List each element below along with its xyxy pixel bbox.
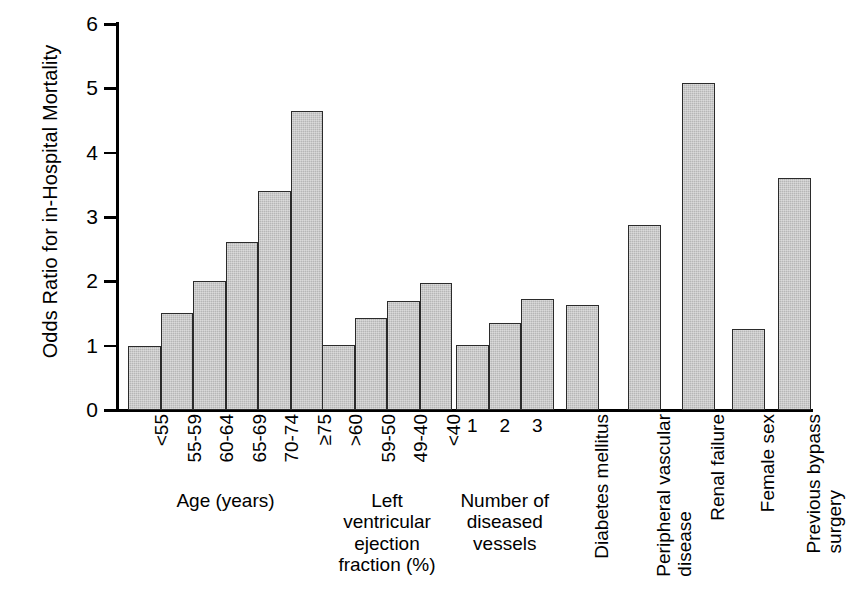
y-tick-5 — [104, 87, 117, 90]
bar — [193, 281, 226, 410]
bar — [566, 305, 599, 410]
bar — [128, 346, 161, 410]
bar — [628, 225, 661, 410]
bar — [682, 83, 715, 410]
y-tick-label-5: 5 — [74, 77, 98, 98]
x-tick-label: 70-74 — [282, 414, 301, 463]
bar — [521, 299, 554, 410]
bar — [226, 242, 259, 410]
bar — [778, 178, 811, 410]
bar — [387, 301, 420, 410]
group-caption: Number of diseased vessels — [424, 490, 586, 554]
x-tick-label: 3 — [521, 416, 554, 435]
x-tick-label: Female sex — [757, 414, 778, 512]
bar — [322, 345, 355, 410]
x-tick-label: >60 — [346, 414, 365, 446]
x-tick-label: 60-64 — [217, 414, 236, 463]
x-tick-label: 1 — [456, 416, 489, 435]
y-tick-0 — [104, 409, 117, 412]
bar — [732, 329, 765, 410]
x-tick-label: 65-69 — [250, 414, 269, 463]
x-tick-label: Renal failure — [707, 414, 728, 521]
bar — [456, 345, 489, 410]
y-tick-3 — [104, 216, 117, 219]
x-tick-label: Previous bypass surgery — [803, 414, 846, 553]
x-tick-label: Diabetes mellitus — [591, 414, 612, 559]
bars-layer — [118, 24, 812, 410]
bar — [161, 313, 194, 410]
y-tick-label-3: 3 — [74, 206, 98, 227]
y-tick-6 — [104, 23, 117, 26]
x-tick-label: 2 — [489, 416, 522, 435]
y-tick-label-1: 1 — [74, 335, 98, 356]
bar — [489, 323, 522, 410]
y-axis-title: Odds Ratio for in-Hospital Mortality — [39, 2, 62, 402]
x-tick-label: Peripheral vascular disease — [653, 414, 696, 577]
y-tick-label-0: 0 — [74, 399, 98, 420]
y-tick-1 — [104, 345, 117, 348]
y-tick-label-6: 6 — [74, 13, 98, 34]
x-tick-label: <55 — [152, 414, 171, 446]
x-tick-label: 59-50 — [379, 414, 398, 463]
bar — [355, 318, 388, 410]
bar — [291, 111, 324, 410]
x-tick-label: 49-40 — [411, 414, 430, 463]
x-tick-label: ≥75 — [315, 414, 334, 446]
bar — [258, 191, 291, 410]
y-tick-4 — [104, 152, 117, 155]
y-tick-2 — [104, 280, 117, 283]
y-tick-label-2: 2 — [74, 270, 98, 291]
bar — [420, 283, 453, 410]
x-tick-label: 55-59 — [185, 414, 204, 463]
y-tick-label-4: 4 — [74, 142, 98, 163]
